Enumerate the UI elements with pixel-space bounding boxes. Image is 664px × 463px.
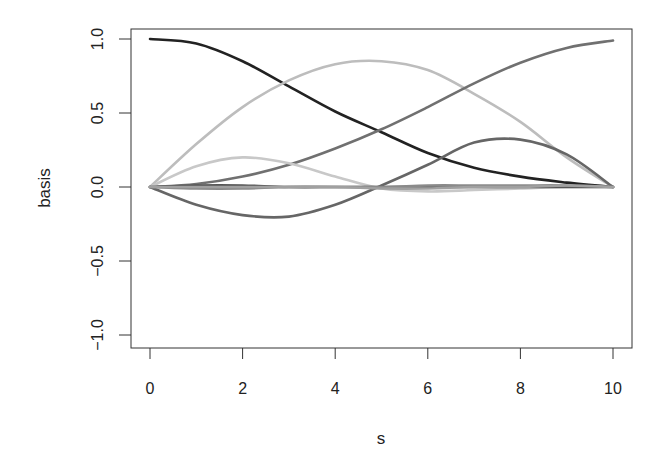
x-tick-label: 10 [604, 380, 622, 397]
x-tick-label: 4 [331, 380, 340, 397]
x-tick-label: 0 [146, 380, 155, 397]
x-axis: 0246810 [146, 348, 622, 397]
series-layer [150, 39, 613, 217]
y-axis-title: basis [35, 168, 54, 208]
x-tick-label: 2 [238, 380, 247, 397]
y-tick-label: 0.0 [89, 176, 106, 198]
series-line-2 [150, 61, 613, 187]
x-tick-label: 8 [516, 380, 525, 397]
x-axis-title: s [377, 429, 386, 448]
x-tick-label: 6 [423, 380, 432, 397]
y-tick-label: 1.0 [89, 28, 106, 50]
y-tick-label: −1.0 [89, 319, 106, 351]
y-axis: −1.0−0.50.00.51.0 [89, 28, 131, 351]
y-tick-label: 0.5 [89, 102, 106, 124]
chart: 0246810 −1.0−0.50.00.51.0 s basis [0, 0, 664, 463]
y-tick-label: −0.5 [89, 245, 106, 277]
series-line-5 [150, 139, 613, 218]
